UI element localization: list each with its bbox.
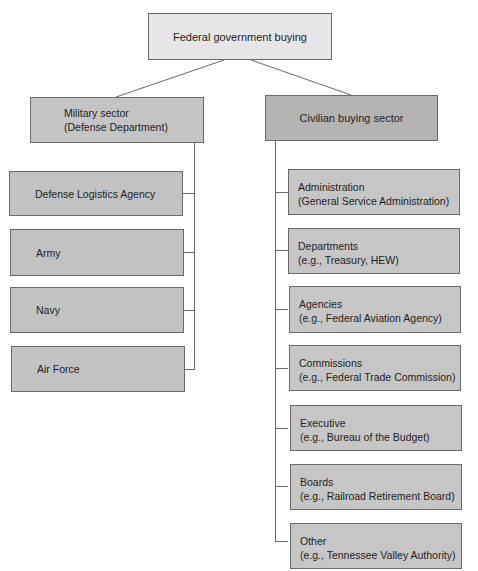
military-branch-line — [183, 252, 194, 253]
civilian-child-executive: Executive (e.g., Bureau of the Budget) — [290, 405, 462, 451]
military-child-air-force: Air Force — [11, 346, 185, 392]
root-node-federal-government-buying: Federal government buying — [148, 13, 332, 60]
civilian-branch-line — [275, 486, 288, 487]
civilian-child-example: (e.g., Treasury, HEW) — [298, 253, 459, 267]
root-label: Federal government buying — [173, 30, 307, 44]
civilian-child-example: (e.g., Bureau of the Budget) — [300, 430, 461, 444]
military-child-label: Army — [36, 246, 61, 260]
civilian-child-commissions: Commissions (e.g., Federal Trade Commiss… — [289, 345, 461, 391]
civilian-child-other: Other (e.g., Tennessee Valley Authority) — [290, 523, 462, 569]
civilian-child-example: (e.g., Federal Aviation Agency) — [299, 311, 460, 325]
military-child-label: Navy — [36, 303, 60, 317]
civilian-branch-line — [275, 309, 288, 310]
civilian-child-title: Agencies — [299, 297, 460, 311]
military-child-label: Air Force — [37, 362, 80, 376]
civilian-branch-line — [275, 192, 288, 193]
civilian-child-title: Commissions — [299, 356, 460, 370]
civilian-child-title: Departments — [298, 239, 459, 253]
military-child-navy: Navy — [10, 287, 184, 333]
military-branch-line — [183, 193, 194, 194]
civilian-trunk-line — [275, 141, 276, 542]
civilian-child-example: (e.g., Tennessee Valley Authority) — [300, 548, 461, 562]
civilian-branch-line — [275, 368, 288, 369]
civilian-child-agencies: Agencies (e.g., Federal Aviation Agency) — [289, 286, 461, 333]
military-sector-node: Military sector (Defense Department) — [30, 97, 204, 143]
military-trunk-line — [194, 143, 195, 369]
military-child-defense-logistics-agency: Defense Logistics Agency — [9, 171, 183, 216]
civilian-child-example: (e.g., Federal Trade Commission) — [299, 370, 460, 384]
civilian-child-boards: Boards (e.g., Railroad Retirement Board) — [290, 464, 462, 510]
civilian-child-title: Boards — [300, 475, 461, 489]
civilian-branch-line — [275, 541, 288, 542]
civilian-branch-line — [275, 250, 288, 251]
civilian-child-example: (e.g., Railroad Retirement Board) — [300, 489, 461, 503]
military-child-army: Army — [10, 229, 184, 276]
civilian-sector-node: Civilian buying sector — [265, 95, 438, 141]
civilian-child-title: Executive — [300, 416, 461, 430]
military-child-label: Defense Logistics Agency — [35, 187, 155, 201]
civilian-child-departments: Departments (e.g., Treasury, HEW) — [288, 228, 460, 274]
civilian-branch-line — [275, 428, 288, 429]
military-sector-title: Military sector — [64, 106, 203, 120]
civilian-child-title: Administration — [298, 180, 459, 194]
military-branch-line — [184, 369, 195, 370]
military-branch-line — [184, 310, 194, 311]
civilian-sector-title: Civilian buying sector — [300, 111, 404, 125]
civilian-child-example: (General Service Administration) — [298, 194, 459, 208]
civilian-child-title: Other — [300, 534, 461, 548]
military-sector-subtitle: (Defense Department) — [64, 120, 203, 134]
civilian-child-administration: Administration (General Service Administ… — [288, 169, 460, 215]
